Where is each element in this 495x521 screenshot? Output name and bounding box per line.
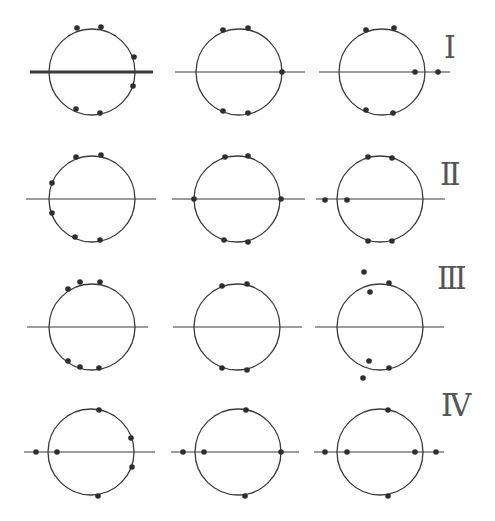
pole-dot bbox=[97, 237, 103, 243]
pole-dot bbox=[191, 196, 197, 202]
row-label-i: I bbox=[444, 32, 453, 64]
pole-dot bbox=[389, 238, 395, 244]
pole-dot bbox=[219, 283, 225, 289]
pole-dot bbox=[365, 154, 371, 160]
pole-dot bbox=[128, 435, 134, 441]
pole-dot bbox=[49, 180, 55, 186]
panel bbox=[314, 407, 444, 499]
pole-dot bbox=[180, 449, 186, 455]
pole-dot bbox=[221, 237, 227, 243]
pole-dot bbox=[366, 358, 372, 364]
pole-dot bbox=[244, 281, 250, 287]
pole-dot bbox=[73, 106, 79, 112]
pole-dot bbox=[278, 196, 284, 202]
row-label-iii: III bbox=[437, 263, 464, 295]
pole-dot bbox=[385, 493, 391, 499]
pole-dot bbox=[363, 27, 369, 33]
pole-dot bbox=[49, 210, 55, 216]
pole-dot bbox=[245, 239, 251, 245]
pole-dot bbox=[435, 69, 441, 75]
pole-dot bbox=[386, 280, 392, 286]
pole-dot bbox=[412, 449, 418, 455]
pole-dot bbox=[279, 69, 285, 75]
row-ii bbox=[26, 152, 445, 245]
pole-dot bbox=[65, 358, 71, 364]
pole-dot bbox=[98, 24, 104, 30]
panel bbox=[316, 154, 445, 244]
pole-dot bbox=[363, 107, 369, 113]
pole-dot bbox=[386, 365, 392, 371]
pole-dot bbox=[72, 234, 78, 240]
panel bbox=[319, 25, 450, 116]
row-label-iv: IV bbox=[441, 390, 469, 422]
pole-dot bbox=[433, 449, 439, 455]
pole-dot bbox=[322, 449, 328, 455]
pole-dot bbox=[220, 27, 226, 33]
pole-dot bbox=[131, 54, 137, 60]
root-locus-diagram bbox=[0, 0, 495, 521]
pole-dot bbox=[96, 407, 102, 413]
pole-dot bbox=[243, 407, 249, 413]
pole-dot bbox=[77, 364, 83, 370]
pole-dot bbox=[219, 365, 225, 371]
pole-dot bbox=[278, 449, 284, 455]
row-iii bbox=[27, 269, 444, 381]
pole-dot bbox=[367, 289, 373, 295]
panel bbox=[30, 24, 153, 116]
pole-dot bbox=[33, 449, 39, 455]
row-label-ii: II bbox=[440, 159, 458, 191]
pole-dot bbox=[245, 110, 251, 116]
pole-dot bbox=[391, 25, 397, 31]
row-i bbox=[30, 24, 450, 116]
pole-dot bbox=[245, 25, 251, 31]
pole-dot bbox=[95, 493, 101, 499]
panel bbox=[315, 269, 444, 381]
pole-dot bbox=[201, 449, 207, 455]
pole-dot bbox=[322, 197, 328, 203]
pole-dot bbox=[242, 493, 248, 499]
panel bbox=[24, 407, 155, 499]
pole-dot bbox=[361, 269, 367, 275]
pole-dot bbox=[220, 108, 226, 114]
pole-dot bbox=[344, 197, 350, 203]
pole-dot bbox=[97, 279, 103, 285]
pole-dot bbox=[129, 464, 135, 470]
pole-dot bbox=[98, 152, 104, 158]
row-iv bbox=[24, 407, 444, 499]
pole-dot bbox=[385, 407, 391, 413]
panel bbox=[173, 281, 302, 373]
pole-dot bbox=[344, 449, 350, 455]
pole-dot bbox=[130, 83, 136, 89]
pole-dot bbox=[54, 449, 60, 455]
pole-dot bbox=[245, 153, 251, 159]
panel bbox=[175, 25, 305, 116]
pole-dot bbox=[365, 238, 371, 244]
pole-dot bbox=[389, 155, 395, 161]
pole-dot bbox=[73, 154, 79, 160]
panel bbox=[172, 153, 305, 245]
pole-dot bbox=[360, 375, 366, 381]
panel bbox=[26, 152, 156, 243]
pole-dot bbox=[97, 110, 103, 116]
pole-dot bbox=[412, 69, 418, 75]
pole-dot bbox=[390, 110, 396, 116]
pole-dot bbox=[65, 286, 71, 292]
panel bbox=[171, 407, 299, 499]
pole-dot bbox=[96, 365, 102, 371]
pole-dot bbox=[74, 25, 80, 31]
pole-dot bbox=[222, 154, 228, 160]
panel bbox=[27, 279, 148, 371]
pole-dot bbox=[77, 279, 83, 285]
pole-dot bbox=[244, 367, 250, 373]
